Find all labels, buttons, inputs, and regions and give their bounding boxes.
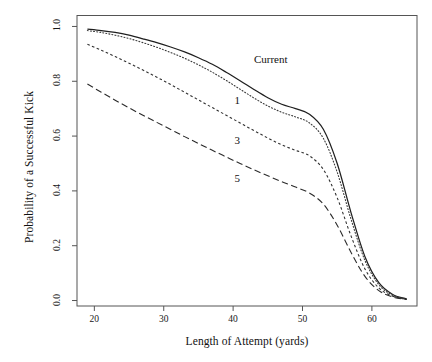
series-label-current: Current <box>254 53 288 65</box>
x-tick-label: 50 <box>290 314 316 324</box>
series-line-3 <box>87 44 406 299</box>
x-tick-label: 20 <box>81 314 107 324</box>
x-axis-title: Length of Attempt (yards) <box>77 335 417 347</box>
y-tick-label: 0.0 <box>52 287 62 313</box>
y-tick-label: 0.4 <box>52 177 62 203</box>
series-line-1 <box>87 31 406 300</box>
series-line-5 <box>87 84 406 299</box>
y-axis-title: Probability of a Successful Kick <box>23 52 35 282</box>
x-tick-label: 40 <box>220 314 246 324</box>
series-label-1: 1 <box>235 94 241 106</box>
x-tick-label: 60 <box>359 314 385 324</box>
figure-goal-kick-probability: Probability of a Successful Kick Length … <box>0 0 432 362</box>
chart-plot-area <box>0 0 432 362</box>
chart-series-lines <box>87 29 406 299</box>
x-tick-label: 30 <box>151 314 177 324</box>
series-label-3: 3 <box>235 134 241 146</box>
series-line-current <box>87 29 406 299</box>
y-tick-label: 0.6 <box>52 122 62 148</box>
y-tick-label: 1.0 <box>52 12 62 38</box>
y-tick-label: 0.8 <box>52 67 62 93</box>
series-label-5: 5 <box>235 172 241 184</box>
y-tick-label: 0.2 <box>52 232 62 258</box>
